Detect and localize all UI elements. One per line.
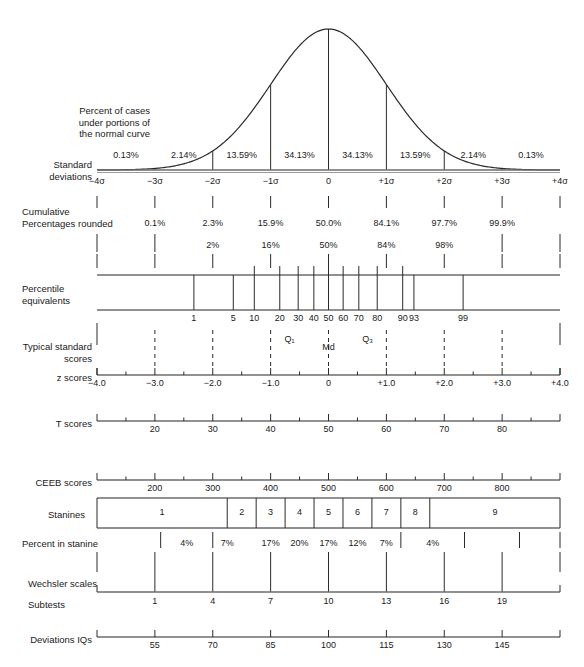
t-score-tick: 60: [381, 424, 391, 434]
percent-of-cases-value: 34.13%: [342, 150, 373, 160]
deviation-iq-tick: 55: [150, 640, 160, 650]
wechsler-subtest-tick: 7: [268, 596, 273, 606]
ceeb-score-tick: 200: [147, 483, 162, 493]
percent-of-cases-value: 13.59%: [400, 150, 431, 160]
deviation-iq-tick: 85: [266, 640, 276, 650]
cumulative-percentage-value: 50.0%: [316, 218, 342, 228]
percentile-value: 80: [372, 313, 382, 323]
wechsler-subtest-tick: 10: [323, 596, 333, 606]
cumulative-percentage-rounded: 16%: [262, 240, 280, 250]
quartile-label-q3: Q₃: [362, 334, 373, 344]
stanine-band-8: 8: [413, 507, 418, 517]
z-score-tick: +3.0: [493, 378, 511, 388]
percent-in-stanine-value: 17%: [319, 538, 337, 548]
cumulative-percentage-rounded: 84%: [377, 240, 395, 250]
percentile-value: 5: [231, 313, 236, 323]
percentile-value: 30: [293, 313, 303, 323]
t-score-tick: 70: [439, 424, 449, 434]
stanine-band-4: 4: [297, 507, 302, 517]
ceeb-score-tick: 500: [321, 483, 336, 493]
z-score-tick: 0: [326, 378, 331, 388]
percentile-value: 93: [409, 313, 419, 323]
ceeb-score-tick: 300: [205, 483, 220, 493]
wechsler-subtest-tick: 1: [152, 596, 157, 606]
percent-in-stanine-value: 20%: [291, 538, 309, 548]
percentile-value: 90: [398, 313, 408, 323]
z-score-tick: +1.0: [377, 378, 395, 388]
deviation-iq-tick: 70: [208, 640, 218, 650]
percentile-value: 50: [323, 313, 333, 323]
ceeb-score-tick: 700: [437, 483, 452, 493]
t-score-tick: 40: [266, 424, 276, 434]
t-score-tick: 80: [497, 424, 507, 434]
percentile-value: 20: [275, 313, 285, 323]
z-score-tick: −2.0: [204, 378, 222, 388]
percentile-value: 10: [249, 313, 259, 323]
percentile-value: 40: [309, 313, 319, 323]
z-score-tick: −1.0: [262, 378, 280, 388]
cumulative-percentage-value: 84.1%: [374, 218, 400, 228]
t-score-tick: 50: [323, 424, 333, 434]
stanine-band-7: 7: [384, 507, 389, 517]
stanine-band-2: 2: [239, 507, 244, 517]
quartile-label-q1: Q₁: [284, 334, 294, 344]
standard-deviation-tick: −1σ: [263, 176, 279, 186]
t-score-tick: 20: [150, 424, 160, 434]
deviation-iq-tick: 100: [321, 640, 336, 650]
percentile-value: 70: [354, 313, 364, 323]
z-score-tick: +2.0: [435, 378, 453, 388]
percent-of-cases-value: 13.59%: [226, 150, 257, 160]
wechsler-subtest-tick: 16: [439, 596, 449, 606]
wechsler-subtest-tick: 19: [497, 596, 507, 606]
stanine-band-5: 5: [326, 507, 331, 517]
deviation-iq-tick: 130: [437, 640, 452, 650]
percentile-value: 99: [458, 313, 468, 323]
wechsler-subtest-tick: 4: [210, 596, 215, 606]
z-score-tick: −4.0: [88, 378, 106, 388]
deviation-iq-tick: 115: [379, 640, 393, 650]
percent-of-cases-value: 34.13%: [284, 150, 315, 160]
percentile-value: 1: [191, 313, 196, 323]
stanine-band-3: 3: [268, 507, 273, 517]
ceeb-score-tick: 600: [379, 483, 394, 493]
percent-of-cases-value: 2.14%: [460, 150, 486, 160]
percent-in-stanine-value: 4%: [180, 538, 193, 548]
standard-deviation-tick: −2σ: [205, 176, 221, 186]
percentile-value: 60: [338, 313, 348, 323]
ceeb-score-tick: 400: [263, 483, 278, 493]
normal-curve-figure: Percent of cases under portions of the n…: [0, 0, 584, 667]
wechsler-subtest-tick: 13: [381, 596, 391, 606]
standard-deviation-tick: +3σ: [494, 176, 510, 186]
standard-deviation-tick: +1σ: [378, 176, 394, 186]
z-score-tick: −3.0: [146, 378, 164, 388]
percent-in-stanine-value: 4%: [426, 538, 439, 548]
cumulative-percentage-rounded: 98%: [435, 240, 453, 250]
standard-deviation-tick: +2σ: [436, 176, 452, 186]
percent-in-stanine-value: 12%: [348, 538, 366, 548]
deviation-iq-tick: 145: [495, 640, 510, 650]
cumulative-percentage-rounded: 50%: [319, 240, 337, 250]
cumulative-percentage-value: 2.3%: [202, 218, 223, 228]
standard-deviation-tick: −4σ: [89, 176, 105, 186]
percent-of-cases-value: 0.13%: [113, 150, 139, 160]
percent-of-cases-value: 0.13%: [518, 150, 544, 160]
percent-in-stanine-value: 7%: [221, 538, 234, 548]
percent-in-stanine-value: 17%: [262, 538, 280, 548]
standard-deviation-tick: +4σ: [552, 176, 568, 186]
stanine-band-6: 6: [355, 507, 360, 517]
percent-in-stanine-value: 7%: [380, 538, 393, 548]
cumulative-percentage-value: 15.9%: [258, 218, 284, 228]
stanine-band-9: 9: [492, 507, 497, 517]
stanine-band-1: 1: [160, 507, 165, 517]
standard-deviation-tick: −3σ: [147, 176, 163, 186]
cumulative-percentage-value: 99.9%: [489, 218, 515, 228]
cumulative-percentage-rounded: 2%: [206, 240, 219, 250]
cumulative-percentage-value: 97.7%: [431, 218, 457, 228]
percent-of-cases-value: 2.14%: [171, 150, 197, 160]
cumulative-percentage-value: 0.1%: [145, 218, 166, 228]
t-score-tick: 30: [208, 424, 218, 434]
ceeb-score-tick: 800: [495, 483, 510, 493]
z-score-tick: +4.0: [551, 378, 569, 388]
quartile-label-md: Md: [322, 342, 335, 352]
standard-deviation-tick: 0: [326, 176, 331, 186]
